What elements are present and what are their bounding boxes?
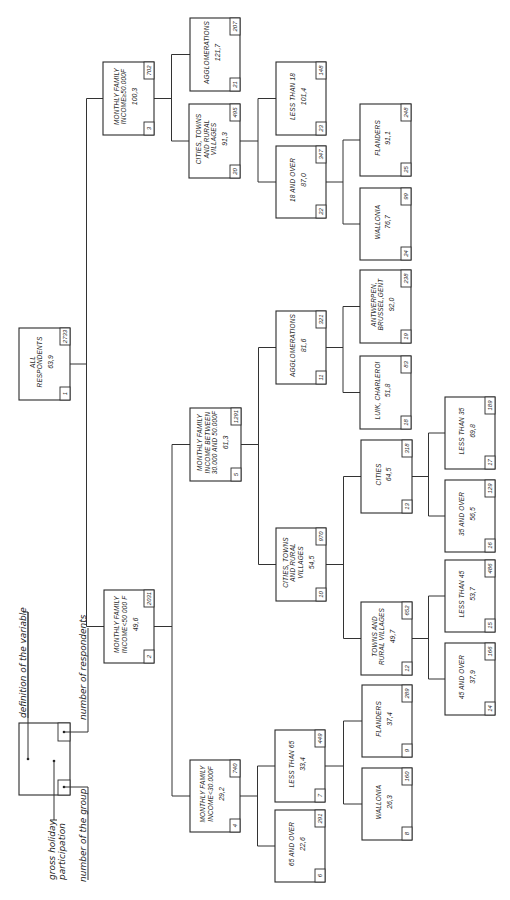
variable-definition: CITIES, TOWNS xyxy=(282,537,289,588)
respondents-count: 166 xyxy=(487,646,493,657)
group-number: 12 xyxy=(404,665,410,672)
respondents-count: 99 xyxy=(403,193,409,200)
group-number: 11 xyxy=(318,374,324,380)
holiday-participation-value: 37,9 xyxy=(469,670,476,684)
legend-participation-label: gross holiday xyxy=(47,819,57,880)
holiday-participation-value: 26,3 xyxy=(386,795,393,810)
respondents-count: 83 xyxy=(403,361,409,368)
holiday-participation-value: 69,8 xyxy=(469,424,476,438)
group-number: 20 xyxy=(232,168,238,176)
group-number: 22 xyxy=(318,208,324,216)
variable-definition: RURAL VILLAGES xyxy=(378,607,385,665)
tree-node-group-8: 1608WALLONIA26,3 xyxy=(362,768,412,840)
tree-node-group-22: 3472218 AND OVER87,0 xyxy=(276,146,326,218)
group-number: 24 xyxy=(403,250,409,258)
variable-definition: INCOME<50 000 F xyxy=(121,595,128,653)
holiday-participation-value: 37,4 xyxy=(386,712,393,726)
respondents-count: 1291 xyxy=(233,410,239,423)
respondents-count: 189 xyxy=(487,400,493,411)
holiday-participation-value: 54,5 xyxy=(308,556,315,570)
respondents-count: 238 xyxy=(403,273,409,285)
holiday-participation-value: 64,5 xyxy=(385,468,392,482)
variable-definition: LESS THAN 65 xyxy=(288,740,295,787)
tree-node-group-16: 1291635 AND OVER56,5 xyxy=(445,480,495,552)
tree-node-group-21: 20721AGGLOMERATIONS121,7 xyxy=(190,18,240,91)
variable-definition: TOWNS AND xyxy=(371,616,378,657)
segmentation-tree-diagram: 27331ALLRESPONDENTS63,920312MONTHLY FAMI… xyxy=(0,0,510,900)
legend-definition-label: definition of the variable xyxy=(18,607,28,718)
group-number: 2 xyxy=(146,654,152,659)
variable-definition: WALLONIA xyxy=(375,785,382,820)
variable-definition: LESS THAN 18 xyxy=(289,73,296,120)
group-number: 1 xyxy=(62,392,68,395)
tree-node-group-25: 24825FLANDERS91,1 xyxy=(360,104,411,176)
variable-definition: MONTHLY FAMILY xyxy=(113,595,120,653)
holiday-participation-value: 91,3 xyxy=(221,132,228,146)
variable-definition: LESS THAN 35 xyxy=(458,407,465,454)
tree-node-group-13: 31813CITIES64,5 xyxy=(361,440,412,513)
respondents-count: 291 xyxy=(317,813,323,824)
respondents-count: 207 xyxy=(232,21,238,33)
variable-definition: ALL xyxy=(29,356,36,369)
holiday-participation-value: 87,0 xyxy=(300,173,307,187)
respondents-count: 495 xyxy=(232,107,238,118)
variable-definition: 18 AND OVER xyxy=(289,158,296,202)
holiday-participation-value: 101,4 xyxy=(300,88,307,106)
respondents-count: 449 xyxy=(317,733,323,744)
holiday-participation-value: 29,2 xyxy=(218,787,225,802)
group-number: 14 xyxy=(487,705,493,712)
group-number: 15 xyxy=(487,622,493,629)
variable-definition: AND RURAL xyxy=(203,119,210,159)
tree-node-group-20: 49520CITIES, TOWNSAND RURALVILLAGES91,3 xyxy=(189,104,240,178)
tree-node-group-14: 1661445 AND OVER37,9 xyxy=(445,643,495,715)
tree-node-group-19: 23819ANTWERPEN,BRUSSEL,GENT92,0 xyxy=(360,270,411,343)
tree-node-group-9: 2899FLANDERS37,4 xyxy=(362,685,412,757)
tree-node-group-12: 65212TOWNS ANDRURAL VILLAGES49,7 xyxy=(361,602,412,675)
respondents-count: 2031 xyxy=(146,592,152,606)
respondents-count: 289 xyxy=(404,688,410,700)
holiday-participation-value: 81,6 xyxy=(300,339,307,353)
variable-definition: BRUSSEL,GENT xyxy=(377,278,384,331)
respondents-count: 318 xyxy=(404,443,410,454)
tree-node-group-5: 12915MONTHLY FAMILYINCOME BETWEEN30.000 … xyxy=(190,408,241,481)
respondents-count: 486 xyxy=(487,563,493,574)
variable-definition: INCOME<30.000F xyxy=(207,765,214,821)
variable-definition: MONTHLY FAMILY xyxy=(196,413,203,471)
variable-definition: FLANDERS xyxy=(375,701,382,737)
variable-definition: INCOME BETWEEN xyxy=(204,411,211,473)
holiday-participation-value: 121,7 xyxy=(214,43,221,62)
tree-node-group-17: 18917LESS THAN 3569,8 xyxy=(445,397,495,469)
respondents-count: 970 xyxy=(318,531,324,542)
respondents-count: 321 xyxy=(318,314,324,324)
variable-definition: AND RURAL xyxy=(289,543,296,583)
variable-definition: LUIK, CHARLEROI xyxy=(374,361,381,419)
holiday-participation-value: 49,6 xyxy=(132,618,139,632)
group-number: 18 xyxy=(403,419,409,426)
legend: definition of the variablenumber of resp… xyxy=(18,607,88,882)
variable-definition: WALLONIA xyxy=(374,205,381,240)
tree-node-group-23: 14823LESS THAN 18101,4 xyxy=(276,62,326,135)
variable-definition: RESPONDENTS xyxy=(36,336,43,387)
holiday-participation-value: 33,4 xyxy=(299,757,306,771)
respondents-count: 347 xyxy=(318,149,324,160)
variable-definition: VILLAGES xyxy=(297,546,304,579)
group-number: 23 xyxy=(318,125,324,133)
holiday-participation-value: 49,7 xyxy=(389,629,396,644)
group-number: 10 xyxy=(318,591,324,598)
respondents-count: 148 xyxy=(318,65,324,76)
holiday-participation-value: 76,7 xyxy=(384,214,391,229)
tree-node-group-7: 4497LESS THAN 6533,4 xyxy=(275,730,325,802)
tree-node-group-4: 7404MONTHLY FAMILYINCOME<30.000F29,2 xyxy=(190,760,240,832)
group-number: 13 xyxy=(404,503,410,510)
holiday-participation-value: 51,8 xyxy=(384,384,391,398)
variable-definition: FLANDERS xyxy=(374,120,381,156)
variable-definition: 35 AND OVER xyxy=(458,492,465,536)
variable-definition: LESS THAN 45 xyxy=(458,570,465,617)
variable-definition: 45 AND OVER xyxy=(458,655,465,699)
respondents-count: 129 xyxy=(487,483,493,494)
holiday-participation-value: 91,1 xyxy=(384,131,391,145)
group-number: 17 xyxy=(487,459,493,466)
variable-definition: CITIES, TOWNS xyxy=(195,113,202,164)
group-number: 19 xyxy=(403,333,409,340)
legend-respondents-label: number of respondents xyxy=(78,614,88,720)
